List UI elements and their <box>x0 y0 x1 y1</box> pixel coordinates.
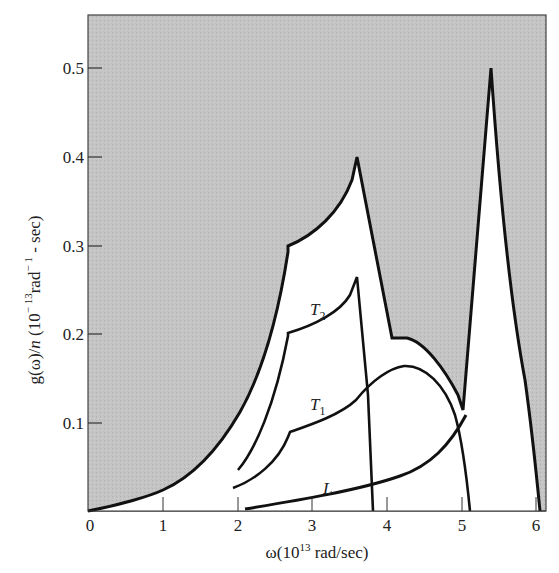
y-tick-labels: 0.1 0.2 0.3 0.4 0.5 <box>63 59 85 433</box>
svg-text:6: 6 <box>532 516 541 535</box>
svg-text:0.1: 0.1 <box>63 414 84 433</box>
svg-text:4: 4 <box>383 516 392 535</box>
svg-text:0.3: 0.3 <box>63 237 84 256</box>
svg-text:1: 1 <box>159 516 168 535</box>
x-tick-labels: 0 1 2 3 4 5 6 <box>86 516 541 535</box>
y-axis-title: g(ω)/n (10− 13rad− 1 - sec) <box>22 216 44 385</box>
svg-text:0.2: 0.2 <box>63 325 84 344</box>
svg-text:2: 2 <box>234 516 243 535</box>
x-axis-title: ω(1013 rad/sec) <box>266 541 369 562</box>
svg-text:0.4: 0.4 <box>63 148 85 167</box>
phonon-dos-chart: 0 1 2 3 4 5 6 0.1 0.2 0.3 0.4 0.5 ω(1013… <box>0 0 559 573</box>
svg-text:0: 0 <box>86 516 95 535</box>
svg-text:0.5: 0.5 <box>63 59 84 78</box>
l-label: L <box>322 479 332 498</box>
svg-text:5: 5 <box>458 516 467 535</box>
svg-text:3: 3 <box>308 516 317 535</box>
